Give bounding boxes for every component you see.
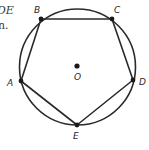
pentagon-in-circle-diagram: B C A D E O bbox=[0, 0, 149, 150]
vertex-a-label: A bbox=[6, 78, 13, 88]
vertex-e-label: E bbox=[73, 131, 79, 141]
vertex-c-label: C bbox=[114, 5, 121, 15]
vertex-b-label: B bbox=[34, 5, 40, 15]
center-o-point bbox=[74, 63, 79, 68]
vertex-a-point bbox=[19, 79, 24, 84]
vertex-d-label: D bbox=[139, 77, 146, 87]
vertex-b-point bbox=[39, 17, 44, 22]
vertex-e-point bbox=[75, 123, 80, 128]
vertex-c-point bbox=[110, 17, 115, 22]
vertex-d-point bbox=[131, 78, 136, 83]
center-o-label: O bbox=[74, 72, 81, 82]
